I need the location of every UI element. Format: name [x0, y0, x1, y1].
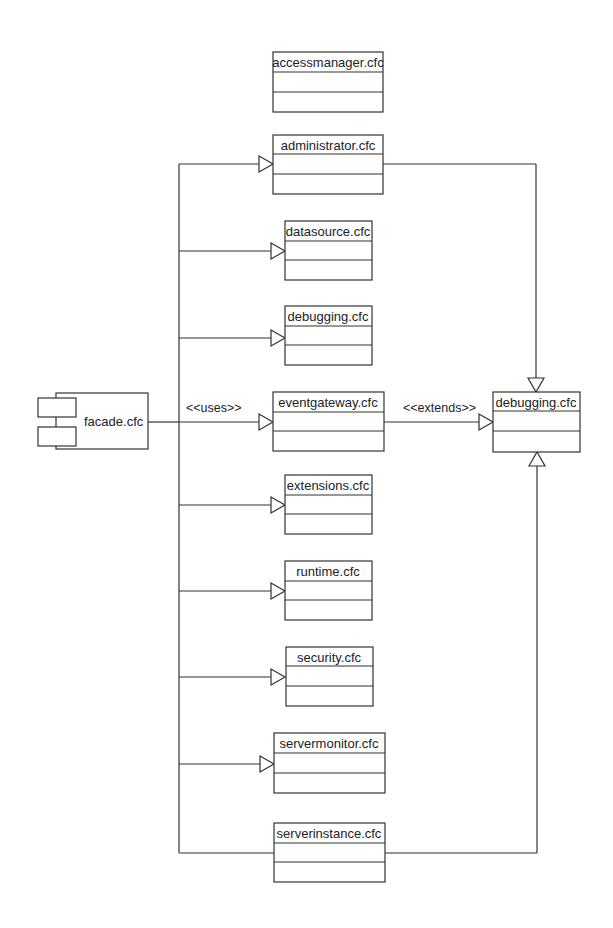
class-runtime[interactable]: runtime.cfc — [285, 561, 372, 620]
uses-label: <<uses>> — [186, 401, 242, 415]
realization-arrow-icon — [271, 330, 285, 346]
realization-arrow-icon — [271, 583, 285, 599]
class-name: servermonitor.cfc — [280, 736, 379, 751]
class-extensions[interactable]: extensions.cfc — [285, 475, 372, 534]
class-name: security.cfc — [297, 650, 362, 665]
class-name: serverinstance.cfc — [277, 826, 382, 841]
class-debugging[interactable]: debugging.cfc — [285, 306, 372, 365]
generalization-arrow-icon — [529, 452, 545, 466]
component-label: facade.cfc — [84, 414, 144, 429]
component-port-icon — [38, 427, 76, 446]
uml-diagram: facade.cfc <<uses>> accessmanager.cfc — [0, 0, 613, 928]
realization-arrow-icon — [259, 156, 273, 172]
component-port-icon — [38, 398, 76, 417]
class-name: datasource.cfc — [286, 224, 371, 239]
class-name: debugging.cfc — [496, 395, 577, 410]
realization-arrow-icon — [259, 414, 273, 430]
class-security[interactable]: security.cfc — [286, 647, 373, 706]
class-name: extensions.cfc — [287, 478, 370, 493]
class-serverinstance[interactable]: serverinstance.cfc — [274, 823, 385, 882]
class-debugging-parent[interactable]: debugging.cfc — [493, 392, 580, 452]
realization-arrow-icon — [260, 756, 274, 772]
uses-branches — [179, 156, 285, 853]
class-name: administrator.cfc — [281, 138, 376, 153]
generalization-arrow-icon — [479, 414, 493, 430]
realization-arrow-icon — [271, 243, 285, 259]
class-administrator[interactable]: administrator.cfc — [273, 135, 383, 194]
class-eventgateway[interactable]: eventgateway.cfc — [273, 392, 384, 451]
realization-arrow-icon — [271, 497, 285, 513]
class-accessmanager[interactable]: accessmanager.cfc — [272, 52, 384, 112]
class-name: eventgateway.cfc — [278, 395, 378, 410]
component-facade[interactable]: facade.cfc — [38, 393, 148, 449]
extends-connectors — [383, 164, 545, 853]
class-datasource[interactable]: datasource.cfc — [285, 221, 372, 280]
class-servermonitor[interactable]: servermonitor.cfc — [274, 733, 385, 793]
extends-label: <<extends>> — [403, 401, 476, 415]
realization-arrow-icon — [271, 669, 285, 685]
class-name: accessmanager.cfc — [272, 55, 384, 70]
class-name: debugging.cfc — [288, 309, 369, 324]
generalization-arrow-icon — [528, 378, 544, 392]
class-name: runtime.cfc — [296, 564, 360, 579]
